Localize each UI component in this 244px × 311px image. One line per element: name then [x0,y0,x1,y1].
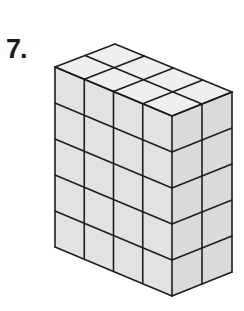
cube-prism-figure [0,0,244,311]
